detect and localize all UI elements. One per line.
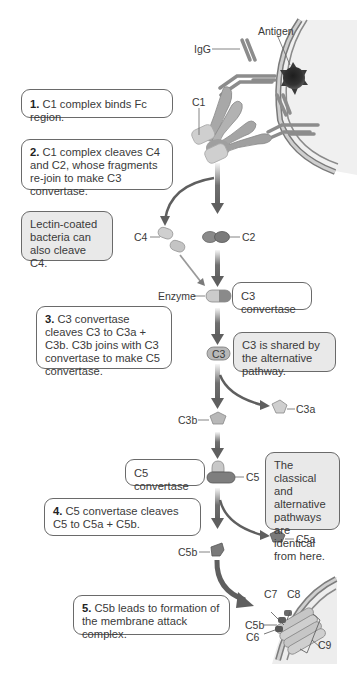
lectin-note: Lectin-coated bacteria can also cleave C… <box>21 211 113 261</box>
enzyme-label: Enzyme <box>158 290 196 302</box>
arrowhead <box>160 216 170 226</box>
c5-label: C5 <box>246 471 259 483</box>
c4-label: C4 <box>134 231 147 243</box>
mac-c7-label: C7 <box>264 588 277 600</box>
enzyme-c3-convertase <box>206 290 231 302</box>
c5-convertase-label-box: C5 convertase <box>125 459 205 486</box>
c2-label: C2 <box>242 231 255 243</box>
c3b-label: C3b <box>178 414 197 426</box>
bacterial-cell-top <box>278 20 357 175</box>
c5-convertase-molecule <box>207 461 235 483</box>
step-5-box: 5. C5b leads to formation of the membran… <box>73 595 230 635</box>
c5b-label: C5b <box>178 546 197 558</box>
igg-label: IgG <box>194 43 211 55</box>
c3a-label: C3a <box>296 403 315 415</box>
c3a-fragment <box>272 400 287 413</box>
c5b-fragment <box>211 543 224 556</box>
identical-pathways-note: The classical and alternative pathways a… <box>265 452 340 530</box>
step-3-box: 3. C3 convertase cleaves C3 to C3a + C3b… <box>36 306 172 369</box>
arrow-to-mac <box>217 560 245 600</box>
c3-shared-note: C3 is shared by the alternative pathway. <box>233 332 336 372</box>
mac-c8-label: C8 <box>287 588 300 600</box>
c3-convertase-label-box: C3 convertase <box>232 282 312 310</box>
step-4-box: 4. C5 convertase cleaves C5 to C5a + C5b… <box>44 498 201 536</box>
c1-label: C1 <box>192 96 205 108</box>
arrow-shaft <box>215 163 220 208</box>
c3b-fragment <box>210 412 226 424</box>
mac-c9-label: C9 <box>318 639 331 651</box>
antigen-label: Antigen <box>258 25 294 37</box>
c2-fragment <box>203 232 230 243</box>
c3-label: C3 <box>212 348 225 360</box>
mac-c6-label: C6 <box>246 631 259 643</box>
arrowhead <box>211 203 224 214</box>
step-1-box: 1. C1 complex binds Fc region. <box>21 89 173 118</box>
c4-fragment <box>157 226 187 254</box>
mac-c5b-label: C5b <box>245 619 264 631</box>
step-2-box: 2. C1 complex cleaves C4 and C2, whose f… <box>21 139 173 190</box>
